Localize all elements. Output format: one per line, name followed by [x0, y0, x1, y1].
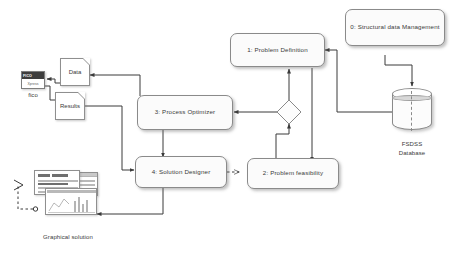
document-fold-icon [78, 92, 85, 99]
chart-preview-icon [46, 193, 97, 215]
fico-logo-bottom-label: Xpress [22, 79, 44, 88]
node-solution-designer-label: 4: Solution Designer [152, 168, 211, 177]
document-fold-icon [83, 58, 90, 65]
fsdss-database-caption-line1: FSDSS [382, 140, 442, 149]
fsdss-database-caption: FSDSS Database [382, 140, 442, 157]
edge-results-to-solution-designer [83, 106, 134, 170]
node-structural-data-management-label: 0: Structural data Management [350, 23, 439, 32]
decision-diamond [277, 100, 301, 124]
artifact-graphical-solution[interactable] [22, 170, 98, 226]
fico-xpress-logo-icon[interactable]: FICO Xpress [21, 71, 45, 89]
node-problem-definition-label: 1: Problem Definition [247, 46, 308, 55]
database-cylinder-divider [411, 91, 413, 131]
edge-feasibility-to-decision [276, 124, 289, 161]
node-structural-data-management[interactable]: 0: Structural data Management [345, 9, 445, 46]
node-process-optimizer[interactable]: 3: Process Optimizer [137, 95, 233, 130]
diagram-canvas: 2: Problem feasibility --> 0: Structural… [0, 0, 456, 255]
artifact-data-document-label: Data [69, 69, 82, 75]
edge-process-optimizer-to-data [90, 75, 140, 96]
fico-caption: fico [21, 92, 45, 98]
node-process-optimizer-label: 3: Process Optimizer [155, 108, 215, 117]
row-line [38, 183, 68, 185]
row-cell [38, 174, 50, 177]
edge-management-to-database [385, 55, 412, 86]
node-problem-definition[interactable]: 1: Problem Definition [230, 33, 325, 67]
fsdss-database-caption-line2: Database [382, 149, 442, 158]
row-cell [52, 174, 68, 177]
artifact-results-document-label: Results [60, 103, 80, 109]
row-line [38, 180, 78, 182]
node-problem-feasibility-label: 2: Problem feasibility [263, 169, 323, 178]
node-problem-feasibility[interactable]: 2: Problem feasibility [247, 158, 339, 189]
node-solution-designer[interactable]: 4: Solution Designer [135, 156, 227, 188]
graphical-solution-chart-window [45, 188, 97, 215]
edge-database-to-problem-definition [325, 50, 392, 112]
edge-solution-designer-to-graphical-solution [97, 187, 163, 214]
artifact-data-document[interactable]: Data [60, 58, 90, 86]
artifact-fsdss-database[interactable] [392, 88, 432, 135]
artifact-results-document[interactable]: Results [55, 92, 85, 120]
graphical-solution-caption: Graphical solution [18, 234, 118, 240]
fico-logo-top-label: FICO [22, 72, 44, 79]
